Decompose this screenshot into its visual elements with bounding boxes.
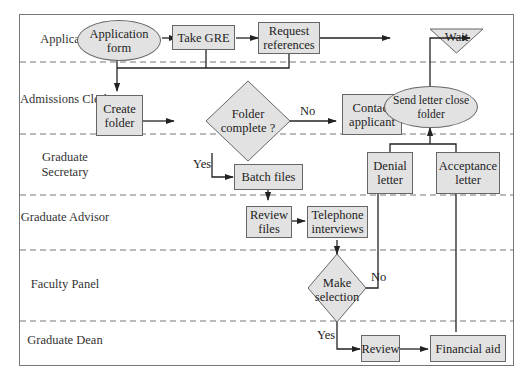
edge-label-no-denial: No [371, 270, 386, 285]
swimlane-flowchart: Applicant Admissions Clerk Graduate Secr… [0, 0, 532, 381]
node-request-references: Request references [258, 22, 320, 54]
node-make-selection: Make selection [310, 276, 364, 304]
node-wait: Wait [430, 29, 483, 45]
node-telephone-interviews: Telephone interviews [307, 206, 368, 238]
node-folder-complete: Folder complete ? [220, 98, 276, 144]
node-batch-files: Batch files [234, 164, 303, 190]
node-take-gre: Take GRE [172, 25, 235, 50]
node-review: Review [361, 335, 400, 362]
node-financial-aid: Financial aid [430, 335, 506, 362]
node-acceptance-letter: Acceptance letter [436, 152, 500, 194]
node-denial-letter: Denial letter [367, 152, 413, 194]
edge-label-yes-batch: Yes [193, 157, 211, 172]
edge-label-yes-review: Yes [317, 328, 335, 343]
node-create-folder: Create folder [96, 95, 143, 136]
node-application-form: Application form [77, 20, 161, 61]
edge-label-no-contact: No [300, 104, 315, 119]
node-send-letter: Send letter close folder [384, 86, 478, 128]
node-review-files: Review files [246, 206, 292, 238]
